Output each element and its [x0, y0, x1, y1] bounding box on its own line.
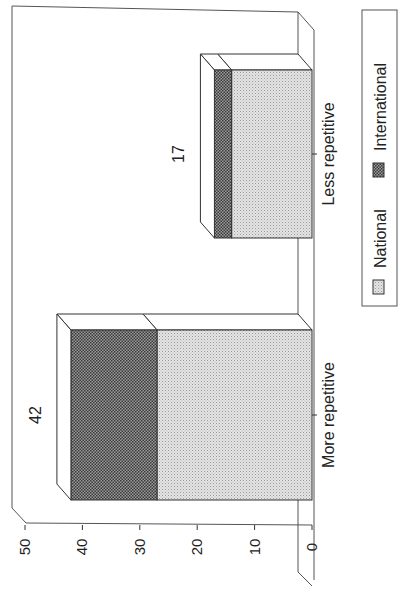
- axis-tick-label: 30: [131, 539, 148, 556]
- segment-national: [232, 70, 312, 238]
- legend-label-international: International: [372, 63, 389, 151]
- legend-label-national: National: [372, 209, 389, 268]
- axis-tick-label: 0: [303, 543, 320, 551]
- category-axis: More repetitiveLess repetitive: [312, 102, 337, 468]
- legend-swatch-international: [373, 163, 384, 177]
- bar-end-face: [200, 54, 214, 238]
- segment-international: [71, 330, 157, 500]
- category-label: Less repetitive: [320, 102, 337, 205]
- total-label: 17: [170, 145, 187, 163]
- bars-group: 4217: [27, 54, 312, 500]
- segment-top-national: [218, 54, 312, 70]
- axis-tick-label: 50: [16, 539, 33, 556]
- cutoff-caption-fragment: [0, 578, 414, 594]
- segment-top-international: [57, 314, 157, 330]
- segment-top-national: [143, 314, 312, 330]
- bar-end-face: [57, 314, 71, 500]
- axis-wall: [12, 508, 312, 525]
- bar-less-repetitive: 17: [170, 54, 312, 238]
- bar-more-repetitive: 42: [27, 314, 312, 500]
- axis-tick-label: 10: [246, 539, 263, 556]
- total-label: 42: [27, 406, 44, 424]
- axis-tick-label: 20: [188, 539, 205, 556]
- category-label: More repetitive: [320, 362, 337, 468]
- legend: NationalInternational: [362, 10, 397, 306]
- segment-international: [214, 70, 231, 238]
- value-axis: 01020304050: [16, 525, 320, 555]
- legend-swatch-national: [373, 280, 384, 294]
- stacked-bar-chart: 4217 01020304050 More repetitiveLess rep…: [0, 0, 414, 594]
- segment-national: [157, 330, 312, 500]
- axis-tick-label: 40: [73, 539, 90, 556]
